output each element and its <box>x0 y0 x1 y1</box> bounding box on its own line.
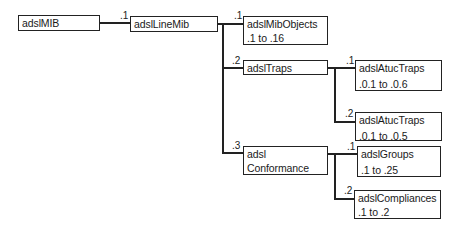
edge-linemib-trunk <box>217 23 243 25</box>
edge-traps-atuctraps2 <box>334 121 355 123</box>
node-range: .1 to .16 <box>247 32 324 44</box>
edge-label-atuctraps1: .1 <box>346 56 354 66</box>
edge-label-mibobjects: .1 <box>234 11 242 21</box>
node-label: adslGroups <box>361 148 437 160</box>
node-adslmibobjects[interactable]: adslMibObjects .1 to .16 <box>243 16 328 45</box>
node-label: adslMIB <box>22 17 96 29</box>
trunk-linemib <box>222 23 224 153</box>
trunk-traps <box>334 67 336 122</box>
node-label: adslMibObjects <box>247 18 324 30</box>
edge-conformance-compliances <box>334 198 354 200</box>
edge-linemib-conformance <box>222 152 243 154</box>
node-label: adslAtucTraps <box>359 114 438 126</box>
node-adslconformance[interactable]: adsl Conformance <box>243 146 328 175</box>
node-adslatuctraps-2[interactable]: adslAtucTraps .0.1 to .0.5 <box>355 112 442 141</box>
mib-tree-diagram: .1 .1 .2 .3 .1 .2 .1 .2 adslMIB adslLine… <box>0 0 460 232</box>
node-label: adslLineMib <box>134 18 214 30</box>
node-label: adslTraps <box>247 62 324 74</box>
trunk-conformance <box>334 153 336 199</box>
node-adsllinemib[interactable]: adslLineMib <box>130 16 218 32</box>
node-label-line2: Conformance <box>247 162 324 174</box>
node-range: .1 to .2 <box>358 206 437 218</box>
node-label: adslAtucTraps <box>359 62 438 74</box>
node-range: .0.1 to .0.6 <box>359 78 438 90</box>
node-adslmib[interactable]: adslMIB <box>18 15 100 31</box>
node-adslgroups[interactable]: adslGroups .1 to .25 <box>357 146 441 177</box>
node-adslcompliances[interactable]: adslCompliances .1 to .2 <box>354 190 441 219</box>
edge-label-atuctraps2: .2 <box>345 109 353 119</box>
edge-label-conformance: .3 <box>232 141 240 151</box>
node-range: .0.1 to .0.5 <box>359 130 438 142</box>
node-label-line1: adsl <box>247 148 324 160</box>
node-adsltraps[interactable]: adslTraps <box>243 60 328 75</box>
node-adslatuctraps-1[interactable]: adslAtucTraps .0.1 to .0.6 <box>355 60 442 91</box>
node-range: .1 to .25 <box>361 164 437 176</box>
node-label: adslCompliances <box>358 192 437 204</box>
edge-root-linemib <box>100 22 130 24</box>
edge-conformance-trunk <box>327 153 357 155</box>
edge-linemib-traps <box>222 67 243 69</box>
edge-label-compliances: .2 <box>344 186 352 196</box>
edge-traps-trunk <box>327 67 355 69</box>
edge-label-groups: .1 <box>347 142 355 152</box>
edge-label-linemib: .1 <box>120 11 128 21</box>
edge-label-traps: .2 <box>232 56 240 66</box>
